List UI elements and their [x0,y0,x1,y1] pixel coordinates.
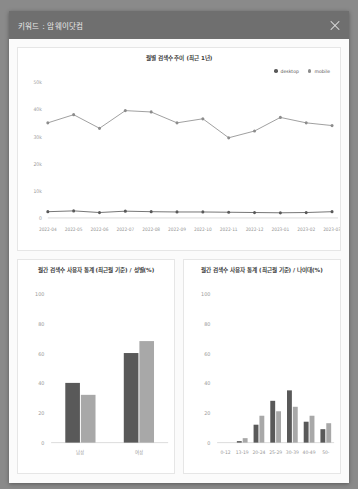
svg-text:60: 60 [204,350,210,356]
legend-label-desktop: desktop [281,69,299,74]
svg-text:30-39: 30-39 [286,449,299,454]
monthly-search-trend-line-chart: 50k40k30k20k10k02022-042022-052022-06202… [18,67,340,250]
svg-text:80: 80 [38,320,44,326]
svg-text:0-12: 0-12 [220,449,230,454]
svg-text:40k: 40k [33,107,42,112]
svg-text:2022-07: 2022-07 [116,226,134,231]
trend-chart-title: 월별 검색수 추이 (최근 1년) [18,48,340,67]
modal-body: 월별 검색수 추이 (최근 1년) desktopmobile 50k40k30… [9,39,349,483]
svg-text:100: 100 [35,290,44,296]
svg-text:20: 20 [204,410,210,416]
svg-text:100: 100 [201,290,210,296]
svg-text:2022-12: 2022-12 [246,226,264,231]
svg-text:2023-01: 2023-01 [271,226,289,231]
svg-text:20-24: 20-24 [252,449,265,454]
svg-text:2022-08: 2022-08 [142,226,160,231]
svg-text:0: 0 [41,440,44,446]
svg-text:40-49: 40-49 [303,449,316,454]
svg-text:2022-10: 2022-10 [194,226,212,231]
trend-chart-area: desktopmobile 50k40k30k20k10k02022-04202… [18,67,340,250]
gender-distribution-bar-chart: 100806040200남성여성 [18,279,174,473]
gender-chart-title: 월간 검색수 사용자 통계 (최근월 기준) / 성별(%) [18,260,174,279]
svg-text:10k: 10k [33,188,42,193]
legend-item-mobile[interactable]: mobile [308,69,330,74]
svg-text:남성: 남성 [76,448,84,454]
age-chart-panel: 월간 검색수 사용자 통계 (최근월 기준) / 나이대(%) 10080604… [183,259,341,474]
svg-text:40: 40 [204,380,210,386]
svg-text:0: 0 [39,216,42,221]
close-icon[interactable] [328,18,342,32]
svg-text:40: 40 [38,380,44,386]
svg-text:80: 80 [204,320,210,326]
svg-text:2022-09: 2022-09 [168,226,186,231]
gender-chart-panel: 월간 검색수 사용자 통계 (최근월 기준) / 성별(%) 100806040… [17,259,175,474]
svg-text:여성: 여성 [135,448,143,455]
legend-dot-desktop [274,69,278,73]
svg-text:2022-06: 2022-06 [91,226,109,231]
svg-text:60: 60 [38,350,44,356]
keyword-detail-modal: 키워드 : 암웨이닷컴 월별 검색수 추이 (최근 1년) desktopmob… [9,11,349,483]
legend-label-mobile: mobile [314,69,330,74]
age-chart-title: 월간 검색수 사용자 통계 (최근월 기준) / 나이대(%) [184,260,340,279]
svg-text:2022-11: 2022-11 [220,226,238,231]
svg-text:20k: 20k [33,161,42,166]
modal-title: 키워드 : 암웨이닷컴 [18,20,328,31]
gender-chart-area: 100806040200남성여성 [18,279,174,473]
svg-text:2022-05: 2022-05 [65,226,83,231]
svg-text:2023-03: 2023-03 [323,226,340,231]
age-chart-area: 1008060402000-1213-1920-2425-2930-3940-4… [184,279,340,473]
legend-item-desktop[interactable]: desktop [274,69,299,74]
svg-text:0: 0 [207,440,210,446]
svg-text:50-: 50- [322,449,330,454]
trend-chart-legend: desktopmobile [274,69,330,74]
svg-text:20: 20 [38,410,44,416]
svg-text:50k: 50k [33,80,42,85]
svg-text:30k: 30k [33,134,42,139]
legend-dot-mobile [308,69,312,73]
svg-text:2023-02: 2023-02 [297,226,315,231]
svg-text:13-19: 13-19 [236,449,249,454]
modal-header: 키워드 : 암웨이닷컴 [9,11,349,39]
svg-text:2022-04: 2022-04 [39,226,57,231]
trend-chart-panel: 월별 검색수 추이 (최근 1년) desktopmobile 50k40k30… [17,47,341,251]
svg-text:25-29: 25-29 [269,449,282,454]
bottom-charts-row: 월간 검색수 사용자 통계 (최근월 기준) / 성별(%) 100806040… [17,259,341,474]
age-distribution-bar-chart: 1008060402000-1213-1920-2425-2930-3940-4… [184,279,340,473]
